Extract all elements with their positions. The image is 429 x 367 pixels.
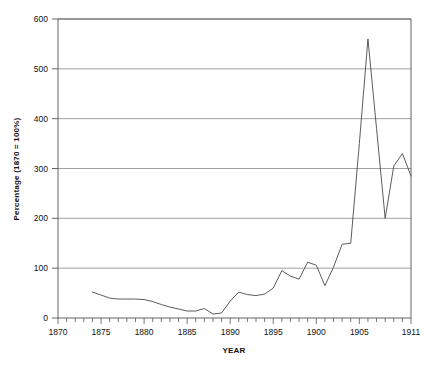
line-chart: 187018751880188518901895190019051911 010… bbox=[0, 0, 429, 367]
x-tick-label: 1870 bbox=[49, 327, 68, 337]
x-tick-label: 1911 bbox=[402, 327, 421, 337]
x-tick-label: 1895 bbox=[264, 327, 283, 337]
y-axis-title: Percentage (1870 = 100%) bbox=[12, 117, 21, 220]
x-tick-label: 1875 bbox=[92, 327, 111, 337]
x-axis-tick-labels: 187018751880188518901895190019051911 bbox=[49, 327, 421, 337]
chart-container: 187018751880188518901895190019051911 010… bbox=[0, 0, 429, 367]
x-tick-label: 1900 bbox=[307, 327, 326, 337]
y-tick-label: 300 bbox=[34, 164, 48, 174]
chart-background bbox=[0, 0, 429, 367]
y-tick-label: 500 bbox=[34, 64, 48, 74]
y-tick-label: 600 bbox=[34, 14, 48, 24]
y-tick-label: 0 bbox=[43, 313, 48, 323]
y-tick-label: 100 bbox=[34, 263, 48, 273]
y-tick-label: 200 bbox=[34, 213, 48, 223]
x-axis-title: YEAR bbox=[222, 346, 245, 355]
x-tick-label: 1880 bbox=[135, 327, 154, 337]
x-tick-label: 1905 bbox=[350, 327, 369, 337]
x-tick-label: 1890 bbox=[221, 327, 240, 337]
x-tick-label: 1885 bbox=[178, 327, 197, 337]
y-tick-label: 400 bbox=[34, 114, 48, 124]
